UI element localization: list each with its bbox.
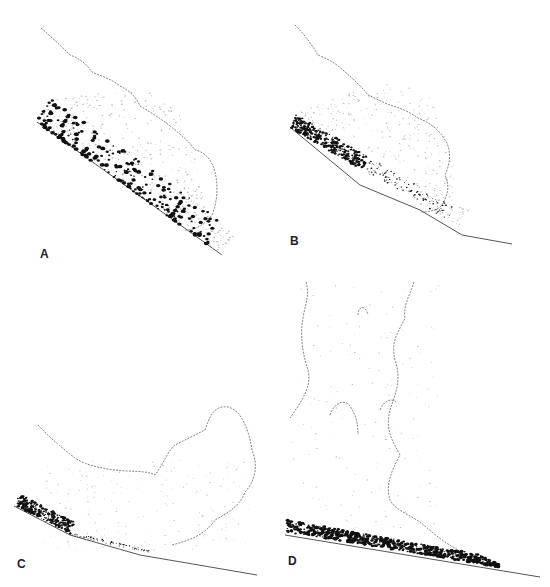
panel-label-d: D	[288, 554, 297, 568]
panel-a-particles	[37, 91, 234, 255]
panel-b	[290, 25, 512, 244]
panel-label-c: C	[17, 557, 26, 571]
panel-label-b: B	[290, 234, 299, 248]
panel-d	[285, 282, 540, 577]
panel-d-slope	[285, 535, 540, 577]
diagram-canvas	[0, 0, 550, 587]
panel-d-particles	[286, 285, 501, 569]
panel-a-cloud-outline	[41, 28, 217, 230]
panel-label-a: A	[40, 247, 49, 261]
panel-b-particles	[290, 84, 469, 227]
panel-d-eddy-2	[358, 308, 368, 316]
panel-a	[37, 28, 234, 255]
panel-c-particles	[16, 460, 249, 552]
panel-d-plume-right	[388, 282, 475, 565]
panel-d-plume-left	[290, 282, 309, 418]
panel-c-slope	[14, 506, 257, 575]
panel-d-eddy-1	[330, 402, 358, 435]
panel-c-cloud-outline	[38, 407, 255, 545]
panel-c	[14, 407, 257, 575]
panel-b-cloud-outline	[295, 25, 450, 212]
